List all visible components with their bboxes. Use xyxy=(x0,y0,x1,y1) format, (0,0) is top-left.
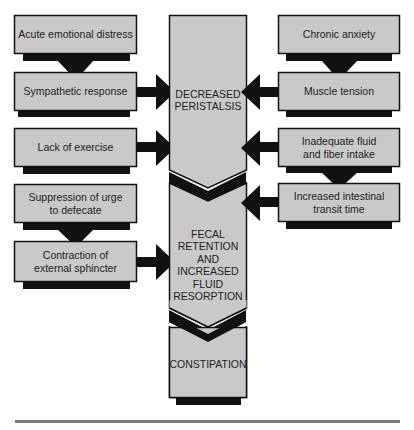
label-text: DECREASED xyxy=(175,88,240,101)
label-fecal-retention: FECAL RETENTION AND INCREASED FLUID RESO… xyxy=(170,225,246,305)
label-text: Contraction of xyxy=(43,249,108,262)
label-text: PERISTALSIS xyxy=(175,100,242,113)
label-text: and fiber intake xyxy=(303,148,375,161)
label-text: Increased intestinal xyxy=(294,190,384,203)
label-text: AND xyxy=(197,253,219,266)
label-text: FLUID xyxy=(193,278,223,291)
label-text: transit time xyxy=(313,203,364,216)
label-text: Suppression of urge xyxy=(29,191,123,204)
label-text: RETENTION xyxy=(178,240,239,253)
constipation-flow-diagram: Acute emotional distress Sympathetic res… xyxy=(0,0,414,430)
label-text: RESORPTION xyxy=(173,290,242,303)
label-text: Muscle tension xyxy=(304,85,374,98)
label-increased-transit-time: Increased intestinal transit time xyxy=(279,184,399,221)
label-text: CONSTIPATION xyxy=(169,358,246,371)
label-text: Inadequate fluid xyxy=(302,135,377,148)
label-muscle-tension: Muscle tension xyxy=(279,73,399,110)
label-lack-of-exercise: Lack of exercise xyxy=(15,129,136,166)
label-suppression-of-urge: Suppression of urge to defecate xyxy=(15,185,136,222)
label-text: Lack of exercise xyxy=(38,141,114,154)
label-text: INCREASED xyxy=(177,265,238,278)
label-text: Acute emotional distress xyxy=(18,28,132,41)
label-text: Sympathetic response xyxy=(24,85,128,98)
label-chronic-anxiety: Chronic anxiety xyxy=(279,16,399,53)
label-text: Chronic anxiety xyxy=(303,28,375,41)
label-decreased-peristalsis: DECREASED PERISTALSIS xyxy=(170,86,246,114)
label-constipation: CONSTIPATION xyxy=(170,356,246,372)
label-text: FECAL xyxy=(191,228,225,241)
label-text: external sphincter xyxy=(34,262,117,275)
label-acute-emotional-distress: Acute emotional distress xyxy=(15,16,136,53)
label-sympathetic-response: Sympathetic response xyxy=(15,73,136,110)
label-inadequate-fluid-fiber: Inadequate fluid and fiber intake xyxy=(279,129,399,166)
label-contraction-external-sphincter: Contraction of external sphincter xyxy=(15,242,136,281)
bottom-divider xyxy=(15,420,400,423)
label-text: to defecate xyxy=(50,204,102,217)
